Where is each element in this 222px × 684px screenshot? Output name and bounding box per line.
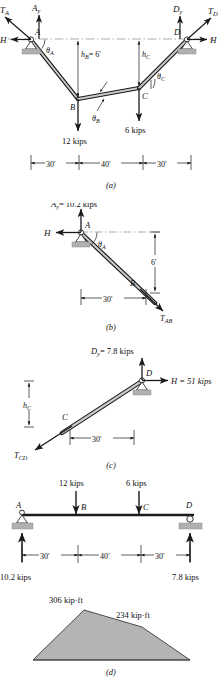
angle-theta-a-arc bbox=[42, 40, 45, 49]
panel-b-span-dimension: 30' bbox=[81, 289, 146, 305]
angle-theta-c-label: θC bbox=[157, 72, 166, 82]
panel-c-height-dimension: hC bbox=[23, 381, 37, 427]
node-b-label: B bbox=[70, 102, 75, 112]
dim-span-2: 40' bbox=[101, 160, 111, 169]
panel-b-tension-arrow bbox=[140, 289, 163, 311]
panel-b-height-label: 6' bbox=[151, 258, 157, 267]
beam-support-a bbox=[12, 510, 33, 529]
force-td-label: TD bbox=[208, 6, 218, 17]
force-ta-arrow bbox=[5, 17, 31, 40]
beam-dim-1: 30' bbox=[40, 552, 50, 561]
load-c-label: 6 kips bbox=[125, 125, 146, 135]
panel-b-caption: (b) bbox=[0, 322, 222, 332]
panel-b-h-label: H bbox=[43, 228, 51, 238]
node-c-label: C bbox=[142, 91, 148, 101]
moment-diagram bbox=[33, 610, 190, 660]
panel-a-caption: (a) bbox=[0, 180, 222, 190]
panel-c-span-dimension: 30' bbox=[70, 430, 134, 445]
dim-span-1: 30' bbox=[46, 160, 56, 169]
panel-c-drawing: TCD Dy= 7.8 kips H = 51 kips D C hC 30' bbox=[0, 345, 222, 460]
beam-reaction-a-label: 10.2 kips bbox=[0, 572, 31, 582]
moment-diagram-area bbox=[33, 610, 190, 660]
panel-c-dy-label: Dy= 7.8 kips bbox=[90, 346, 134, 357]
panel-b-drawing: TAB Ay= 10.2 kips H A B θA 6' 30' bbox=[0, 203, 222, 323]
cable-segment-bc bbox=[78, 88, 139, 99]
panel-c-caption: (c) bbox=[0, 460, 222, 470]
panel-b-ay-label: Ay= 10.2 kips bbox=[50, 203, 97, 210]
angle-theta-b-leader bbox=[97, 99, 104, 111]
force-td-arrow bbox=[187, 18, 211, 40]
force-dy-label: Dy bbox=[172, 4, 183, 15]
panel-b-height-dimension: 6' bbox=[150, 232, 164, 293]
panel-c-span-label: 30' bbox=[92, 435, 102, 444]
angle-theta-b-label: θB bbox=[92, 114, 100, 124]
node-d-label: D bbox=[173, 27, 181, 37]
load-b-label: 12 kips bbox=[62, 136, 87, 146]
panel-d-drawing: A B C D 12 kips 6 kips 10.2 kips 7.8 kip… bbox=[0, 475, 222, 680]
panel-b-node-b-label: B bbox=[130, 278, 135, 288]
beam-node-a-label: A bbox=[15, 500, 22, 510]
dim-hc-label: hC bbox=[142, 50, 151, 60]
beam-dim-2: 40' bbox=[100, 552, 110, 561]
panel-b-span-label: 30' bbox=[103, 295, 113, 304]
dim-hb-label: hB= 6' bbox=[81, 50, 101, 60]
panel-c-cable-cd bbox=[62, 381, 142, 433]
panel-c: TCD Dy= 7.8 kips H = 51 kips D C hC 30' bbox=[0, 345, 222, 460]
panel-a-drawing: TA Ay H A Dy TD H D θA hB= 6' hC B C θB … bbox=[0, 0, 222, 178]
beam-reaction-d-label: 7.8 kips bbox=[172, 572, 199, 582]
panel-c-h-label: H = 51 kips bbox=[170, 376, 212, 386]
moment-peak-b-label: 306 kip·ft bbox=[49, 595, 83, 605]
panel-b: TAB Ay= 10.2 kips H A B θA 6' 30' bbox=[0, 203, 222, 323]
force-ta-label: TA bbox=[0, 5, 9, 16]
span-dimensions-a: 30' 40' 30' bbox=[31, 155, 191, 170]
panel-b-node-a-label: A bbox=[84, 220, 91, 230]
panel-b-angle-label: θA bbox=[98, 240, 106, 250]
beam-dim-3: 30' bbox=[155, 552, 165, 561]
beam-node-b-label: B bbox=[81, 502, 86, 512]
force-h-left-label: H bbox=[0, 35, 7, 45]
panel-d-caption: (d) bbox=[0, 667, 222, 677]
angle-theta-a-label: θA bbox=[46, 46, 54, 56]
force-h-right-label: H bbox=[209, 35, 217, 45]
panel-d: A B C D 12 kips 6 kips 10.2 kips 7.8 kip… bbox=[0, 475, 222, 680]
beam-load-c-label: 6 kips bbox=[126, 478, 147, 488]
panel-c-node-d-label: D bbox=[145, 368, 153, 378]
panel-c-tension-label: TCD bbox=[14, 450, 28, 460]
beam-support-d bbox=[179, 516, 202, 529]
beam-load-b-label: 12 kips bbox=[59, 478, 84, 488]
moment-peak-c-label: 234 kip·ft bbox=[116, 610, 150, 620]
angle-theta-c-arc bbox=[153, 79, 155, 88]
dim-span-3: 30' bbox=[157, 160, 167, 169]
panel-c-tension-arrow bbox=[35, 426, 72, 450]
beam-span-dimensions: 30' 40' 30' bbox=[22, 545, 190, 563]
cable-bc-leader bbox=[100, 82, 107, 92]
beam-node-c-label: C bbox=[143, 502, 149, 512]
panel-c-node-c-label: C bbox=[62, 412, 68, 422]
beam-node-d-label: D bbox=[185, 500, 193, 510]
force-ay-label: Ay bbox=[31, 3, 41, 14]
node-a-label: A bbox=[34, 27, 41, 37]
panel-a: TA Ay H A Dy TD H D θA hB= 6' hC B C θB … bbox=[0, 0, 222, 178]
